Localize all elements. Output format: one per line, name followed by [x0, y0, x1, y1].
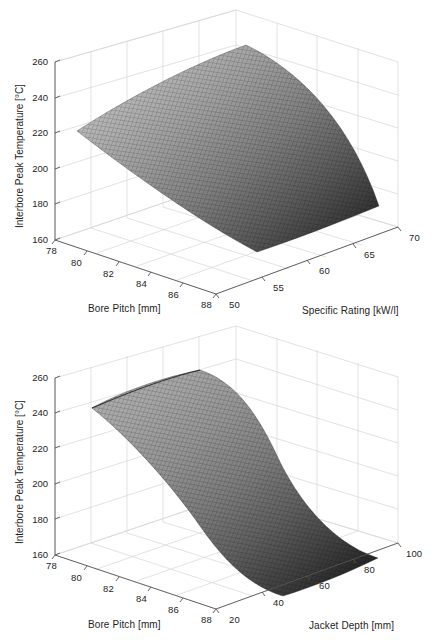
ytick-bottom-4: 100 [406, 549, 422, 559]
xtick-top-2: 82 [103, 269, 114, 279]
axes-3d-bottom [0, 330, 440, 643]
xtick-top-1: 80 [71, 258, 82, 268]
ytick-top-2: 60 [319, 266, 330, 276]
ztick-bottom-5: 160 [18, 549, 48, 560]
ytick-top-1: 55 [273, 283, 284, 293]
ztick-bottom-0: 260 [18, 372, 48, 383]
surface-plot-top: 260 240 220 200 180 160 Interbore Peak T… [0, 0, 440, 330]
ytick-top-4: 70 [409, 233, 420, 243]
ytick-bottom-3: 80 [364, 565, 375, 575]
axes-3d-top [0, 0, 440, 330]
xtick-bottom-1: 80 [71, 573, 82, 583]
xtick-top-4: 86 [168, 290, 179, 300]
ytick-bottom-0: 20 [229, 615, 240, 625]
ztick-top-0: 260 [18, 56, 48, 67]
z-ticks-top [55, 60, 60, 240]
xtick-top-5: 88 [201, 300, 212, 310]
xtick-top-3: 84 [136, 279, 147, 289]
plot-area-bottom: 260 240 220 200 180 160 Interbore Peak T… [0, 330, 440, 643]
x-axis-title-top: Bore Pitch [mm] [88, 304, 161, 314]
z-axis-title-bottom: Interbore Peak Temperature [°C] [14, 400, 25, 544]
ytick-bottom-1: 40 [273, 598, 284, 608]
xtick-bottom-3: 84 [136, 594, 147, 604]
surface-plot-bottom: 260 240 220 200 180 160 Interbore Peak T… [0, 330, 440, 643]
plot-area-top: 260 240 220 200 180 160 Interbore Peak T… [0, 0, 440, 330]
xtick-bottom-5: 88 [201, 615, 212, 625]
surface-mesh-bottom [60, 350, 420, 620]
xtick-bottom-4: 86 [168, 605, 179, 615]
ytick-top-0: 50 [229, 300, 240, 310]
y-axis-title-top: Specific Rating [kW/l] [302, 306, 399, 316]
xtick-top-0: 78 [46, 246, 57, 256]
y-axis-title-bottom: Jacket Depth [mm] [309, 621, 394, 631]
x-ticks-bottom [52, 555, 216, 613]
ytick-bottom-2: 60 [319, 581, 330, 591]
z-ticks-bottom [55, 376, 60, 555]
xtick-bottom-0: 78 [46, 561, 57, 571]
x-ticks-top [52, 240, 216, 298]
ytick-top-3: 65 [364, 250, 375, 260]
x-axis-title-bottom: Bore Pitch [mm] [88, 620, 161, 630]
z-axis-title-top: Interbore Peak Temperature [°C] [14, 84, 25, 228]
ztick-top-5: 160 [18, 234, 48, 245]
xtick-bottom-2: 82 [103, 584, 114, 594]
